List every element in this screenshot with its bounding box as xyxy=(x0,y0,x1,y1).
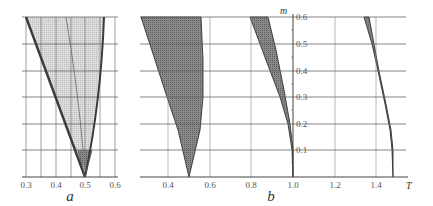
figure: 0.3 0.4 0.5 0.6 a xyxy=(0,0,433,206)
panel-b-xtick-0: 0.4 xyxy=(162,180,174,190)
panel-a-xtick-2: 0.5 xyxy=(79,180,91,190)
panel-b: 0.6 0.5 0.4 0.3 0.2 0.1 m 0.4 0.6 0.8 1.… xyxy=(140,5,413,204)
panel-a-label: a xyxy=(66,188,74,204)
panel-b-xtick-5: 1.4 xyxy=(370,180,382,190)
panel-a-xtick-3: 0.6 xyxy=(109,180,121,190)
panel-b-t-axis-label: T xyxy=(406,180,413,191)
panel-b-label: b xyxy=(267,188,275,204)
panel-b-ytick-0.6: 0.6 xyxy=(296,12,308,22)
panel-b-m-axis-label: m xyxy=(280,5,287,16)
panel-b-ytick-0.1: 0.1 xyxy=(296,145,307,155)
panel-b-ytick-0.3: 0.3 xyxy=(296,92,308,102)
panel-a: 0.3 0.4 0.5 0.6 a xyxy=(20,17,121,204)
panel-b-xtick-3: 1.0 xyxy=(287,180,299,190)
panel-b-xtick-2: 0.8 xyxy=(245,180,257,190)
panel-b-xtick-4: 1.2 xyxy=(329,180,340,190)
panel-b-ytick-0.2: 0.2 xyxy=(296,119,307,129)
panel-a-xtick-0: 0.3 xyxy=(20,180,32,190)
panel-b-ytick-0.4: 0.4 xyxy=(296,66,308,76)
panel-a-xtick-1: 0.4 xyxy=(50,180,62,190)
panel-b-ytick-0.5: 0.5 xyxy=(296,39,308,49)
panel-b-xtick-1: 0.6 xyxy=(204,180,216,190)
